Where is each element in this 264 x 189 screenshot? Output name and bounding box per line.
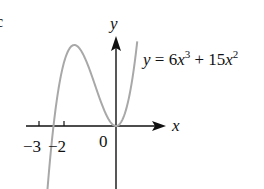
x-axis-label: x: [171, 116, 180, 135]
tick-label-minus-2: −2: [48, 137, 66, 156]
origin-label: 0: [99, 132, 108, 151]
tick-label-minus-3: −3: [23, 137, 41, 156]
partial-part-label: c: [0, 13, 3, 30]
y-axis-label: y: [108, 14, 118, 33]
cubic-graph: c y x 0 −3 −2 y = 6x3 + 15x2: [0, 0, 264, 189]
equation-label: y = 6x3 + 15x2: [141, 48, 238, 69]
cubic-curve: [47, 41, 137, 189]
